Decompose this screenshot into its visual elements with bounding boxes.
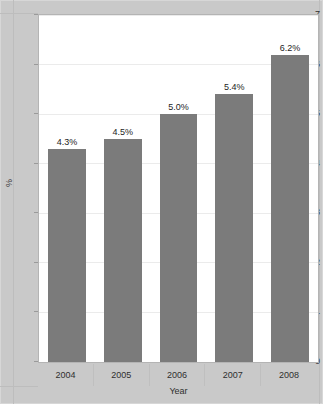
bar[interactable] <box>48 149 86 362</box>
bar[interactable] <box>104 139 142 362</box>
x-tick-label: 2006 <box>150 364 206 386</box>
x-axis-category-band: 20042005200620072008 <box>38 364 319 386</box>
bar-value-label: 5.4% <box>206 82 262 92</box>
bar-value-label: 5.0% <box>151 102 207 112</box>
bar-slot: 4.5% <box>95 15 151 362</box>
bar-slot: 4.3% <box>39 15 95 362</box>
gutter-seam-bottom <box>0 386 38 387</box>
plot-area: 4.3%4.5%5.0%5.4%6.2% <box>38 14 319 363</box>
bar[interactable] <box>271 55 309 362</box>
bar-chart-figure: % 01234567 4.3%4.5%5.0%5.4%6.2% 20042005… <box>0 0 323 404</box>
bar-slot: 5.4% <box>206 15 262 362</box>
y-axis-title: % <box>4 176 14 190</box>
gutter-seam-top-left <box>0 13 38 14</box>
bar-value-label: 6.2% <box>262 43 318 53</box>
bars-group: 4.3%4.5%5.0%5.4%6.2% <box>39 15 318 362</box>
x-axis-title: Year <box>38 386 319 396</box>
x-tick-label: 2007 <box>205 364 261 386</box>
bar[interactable] <box>215 94 253 362</box>
bar-value-label: 4.5% <box>95 127 151 137</box>
bar-slot: 5.0% <box>151 15 207 362</box>
bar-value-label: 4.3% <box>39 137 95 147</box>
gutter-seam-left <box>13 0 14 404</box>
x-tick-label: 2005 <box>94 364 150 386</box>
x-tick-label: 2004 <box>38 364 94 386</box>
bar-slot: 6.2% <box>262 15 318 362</box>
x-tick-label: 2008 <box>261 364 317 386</box>
bar[interactable] <box>160 114 198 362</box>
